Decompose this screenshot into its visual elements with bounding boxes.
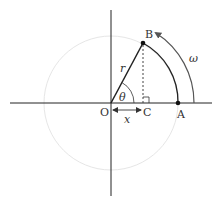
arc-AB bbox=[143, 43, 178, 103]
point-A bbox=[176, 101, 181, 106]
point-B bbox=[141, 41, 146, 46]
label-theta: θ bbox=[119, 91, 126, 104]
label-B: B bbox=[145, 28, 153, 41]
label-C: C bbox=[143, 106, 151, 119]
label-O: O bbox=[100, 106, 109, 119]
label-x: x bbox=[124, 113, 131, 126]
right-angle-marker bbox=[143, 97, 149, 103]
label-omega: ω bbox=[189, 52, 198, 65]
radius-OB bbox=[111, 43, 143, 103]
diagram-canvas: O C A B r θ x ω bbox=[0, 0, 218, 200]
omega-arc bbox=[156, 33, 194, 103]
label-A: A bbox=[176, 108, 186, 121]
label-r: r bbox=[120, 62, 126, 75]
